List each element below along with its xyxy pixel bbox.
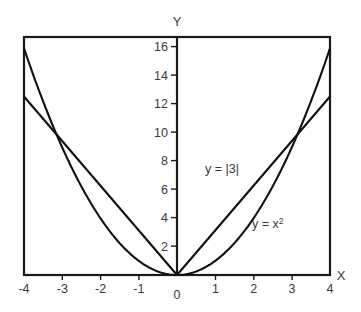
x-tick-label-origin: 0 bbox=[174, 288, 181, 302]
plot-canvas: Y X 16 14 12 10 8 6 4 2 -4 -3 -2 -1 0 1 … bbox=[0, 0, 361, 312]
x-tick-label: 2 bbox=[250, 282, 257, 296]
y-tick-label: 10 bbox=[154, 126, 168, 140]
x-tick-label: -4 bbox=[18, 282, 29, 296]
y-tick-label: 14 bbox=[154, 69, 168, 83]
series-label-parabola-base: y = x bbox=[252, 217, 279, 231]
x-tick-label: -3 bbox=[57, 282, 68, 296]
y-tick-label: 12 bbox=[154, 97, 168, 111]
x-tick-label: 4 bbox=[327, 282, 334, 296]
x-tick-label: 1 bbox=[212, 282, 219, 296]
series-label-abs: y = |3| bbox=[205, 162, 239, 176]
series-label-parabola: y = x2 bbox=[252, 216, 284, 232]
y-tick-label: 4 bbox=[161, 211, 168, 225]
y-tick-label: 16 bbox=[154, 40, 168, 54]
y-tick-label: 8 bbox=[161, 154, 168, 168]
x-tick-labels: -4 -3 -2 -1 0 1 2 3 4 bbox=[18, 282, 333, 302]
series-label-parabola-exponent: 2 bbox=[279, 216, 284, 226]
y-tick-label: 2 bbox=[161, 240, 168, 254]
x-tick-label: -2 bbox=[95, 282, 106, 296]
y-tick-label: 6 bbox=[161, 183, 168, 197]
x-tick-label: 3 bbox=[289, 282, 296, 296]
function-plot-figure: Y X 16 14 12 10 8 6 4 2 -4 -3 -2 -1 0 1 … bbox=[0, 0, 361, 312]
y-tick-labels: 16 14 12 10 8 6 4 2 bbox=[154, 40, 168, 254]
x-axis-label: X bbox=[337, 268, 346, 283]
y-axis-label: Y bbox=[173, 14, 182, 29]
x-tick-label: -1 bbox=[133, 282, 144, 296]
